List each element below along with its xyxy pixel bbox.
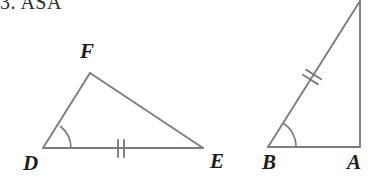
angle-arc-D (60, 126, 71, 148)
segment-FE (90, 73, 203, 148)
angle-arc-B (283, 123, 296, 147)
vertex-label-D: D (22, 151, 38, 175)
vertex-label-B: B (261, 150, 276, 174)
vertex-label-A: A (345, 150, 361, 174)
segment-DF (43, 73, 90, 148)
vertex-label-E: E (209, 149, 224, 173)
triangle-def: D E F (22, 39, 224, 175)
geometry-figure: 3. ASA D E F (0, 0, 384, 195)
triangles-diagram: D E F B A (0, 0, 384, 195)
triangle-abc: B A (261, 1, 361, 174)
vertex-label-F: F (79, 39, 94, 63)
